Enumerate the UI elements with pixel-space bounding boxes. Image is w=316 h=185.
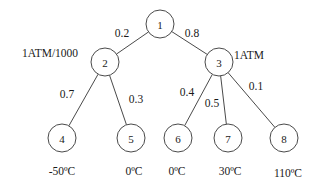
tree-node-label-4: 4 — [59, 133, 65, 144]
edge-weight-label: 0.5 — [205, 97, 219, 109]
tree-node-label-3: 3 — [216, 57, 222, 68]
leaf-caption-node-5: 0ºC — [126, 165, 143, 177]
leaf-caption-node-8: 110ºC — [274, 167, 302, 179]
tree-node-label-7: 7 — [225, 133, 231, 144]
tree-node-label-5: 5 — [128, 133, 134, 144]
diagram-canvas: 12345678 0.20.80.70.30.40.50.1 1ATM/1000… — [0, 0, 316, 185]
leaf-caption-node-6: 0ºC — [169, 165, 186, 177]
tree-node-label-8: 8 — [281, 133, 287, 144]
edge-layer — [69, 32, 275, 128]
tree-edge — [110, 75, 127, 125]
leaf-caption-node-4: -50ºC — [49, 165, 76, 177]
tree-edge — [221, 76, 227, 124]
annotation-right-pressure: 1ATM — [234, 49, 264, 61]
edge-weight-label: 0.2 — [115, 27, 129, 39]
tree-node-label-2: 2 — [102, 57, 108, 68]
edge-weight-label: 0.1 — [249, 80, 263, 92]
edge-weight-label: 0.7 — [60, 88, 74, 100]
edge-weight-label: 0.4 — [180, 86, 194, 98]
edge-weight-label: 0.3 — [129, 93, 143, 105]
tree-node-label-6: 6 — [175, 133, 181, 144]
tree-node-label-1: 1 — [157, 19, 163, 30]
annotation-left-pressure: 1ATM/1000 — [22, 47, 78, 59]
leaf-caption-node-7: 30ºC — [219, 165, 242, 177]
edge-weight-label: 0.8 — [185, 27, 199, 39]
tree-edge — [69, 74, 98, 126]
